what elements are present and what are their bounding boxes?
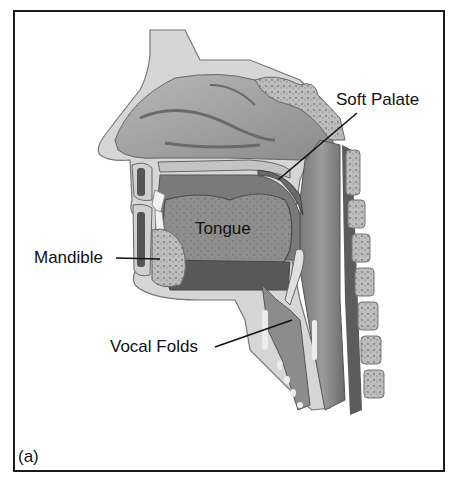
label-soft-palate: Soft Palate	[336, 91, 419, 108]
arytenoid-cartilage	[312, 320, 317, 360]
label-vocal-folds: Vocal Folds	[110, 338, 198, 355]
mandible-leader-line	[116, 258, 160, 259]
panel-label: (a)	[18, 448, 39, 465]
vocal-tract-illustration	[0, 0, 461, 480]
label-tongue: Tongue	[195, 220, 251, 237]
label-mandible: Mandible	[34, 249, 103, 266]
upper-lip-muscle	[137, 168, 145, 196]
